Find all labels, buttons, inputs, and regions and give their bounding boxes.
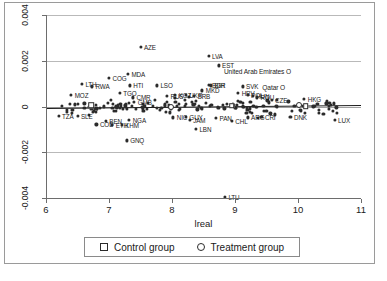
y-tick-label: 0 [20,104,30,109]
data-point [215,116,218,119]
point-label: HTI [133,82,143,89]
x-tick-label: 9 [232,204,237,215]
point-label: GNQ [130,137,144,144]
x-tick [46,199,47,203]
point-label: MOZ [75,92,89,99]
point-label: United Arab Emirates O [224,68,291,75]
x-tick [109,199,110,203]
data-point [188,118,191,121]
x-tick [361,199,362,203]
point-label: TZA [62,112,74,119]
x-tick [235,199,236,203]
y-tick-label: -0.002 [20,140,30,164]
data-point [124,102,127,105]
data-point [168,111,171,114]
data-point [335,106,338,109]
data-point [265,109,268,112]
x-tick-label: 10 [293,204,304,215]
data-point [217,106,220,109]
data-point [317,111,320,114]
data-point [255,105,258,108]
point-label: SRB [198,92,211,99]
point-label: JAM [193,116,205,123]
data-point [165,94,168,97]
data-point [249,100,252,103]
y-axis [46,15,47,198]
x-tick-label: 11 [356,204,366,215]
control-point [89,103,95,109]
data-point [178,102,181,105]
data-point [248,107,251,110]
legend-item-treatment[interactable]: Treatment group [197,242,285,253]
data-point [95,110,98,113]
x-tick [172,199,173,203]
y-tick-label: 0.002 [20,50,30,71]
data-point [225,102,228,105]
point-label: SLE [81,113,93,120]
gridline [46,15,361,16]
data-point [83,102,86,105]
treatment-point [296,102,302,108]
data-point [237,91,240,94]
data-point [107,77,110,80]
x-tick [298,199,299,203]
data-point [174,100,177,103]
point-label: TGO [123,90,136,97]
point-label: LBN [199,125,211,132]
data-point [57,114,60,117]
data-point [196,108,199,111]
control-point [229,103,235,109]
data-point [194,99,197,102]
data-point [289,115,292,118]
control-point [303,103,309,109]
data-point [80,82,83,85]
point-label: LTU [228,193,239,200]
data-point [246,116,249,119]
data-point [160,106,163,109]
circle-marker-icon [197,243,205,251]
data-point [333,119,336,122]
x-tick-label: 8 [169,204,174,215]
point-label: CRI [265,113,276,120]
data-point [131,96,134,99]
data-point [332,109,335,112]
data-point [133,100,136,103]
point-label: AZE [144,43,156,50]
data-point [223,107,226,110]
data-point [230,119,233,122]
point-label: RWA [95,83,109,90]
data-point [154,99,157,102]
x-tick-label: 6 [43,204,48,215]
data-point [134,107,137,110]
y-tick-label: 0.004 [20,4,30,25]
y-tick-label: -0.004 [20,186,30,210]
legend-item-control[interactable]: Control group [100,242,175,253]
data-point [128,84,131,87]
data-point [125,139,128,142]
data-point [290,109,293,112]
point-label: HKG [308,96,321,103]
point-label: LVA [212,52,223,59]
x-tick-label: 7 [106,204,111,215]
data-point [303,98,306,101]
data-point [184,102,187,105]
plot-area: AZELVAESTUnited Arab Emirates OMDACOGLTH… [46,15,361,198]
data-point [145,108,148,111]
data-point [241,85,244,88]
data-point [217,64,220,67]
point-label: COG [113,75,127,82]
data-point [183,98,186,101]
data-point [207,54,210,57]
data-point [95,123,98,126]
data-point [68,102,71,105]
point-label: GMB [138,98,152,105]
data-point [106,101,109,104]
x-axis: 67891011 [46,198,361,199]
gridline [46,61,361,62]
data-point [177,108,180,111]
data-point [139,45,142,48]
x-axis-title: lreal [46,218,361,229]
point-label: NGA [133,117,146,124]
data-point [70,93,73,96]
data-point [114,109,117,112]
